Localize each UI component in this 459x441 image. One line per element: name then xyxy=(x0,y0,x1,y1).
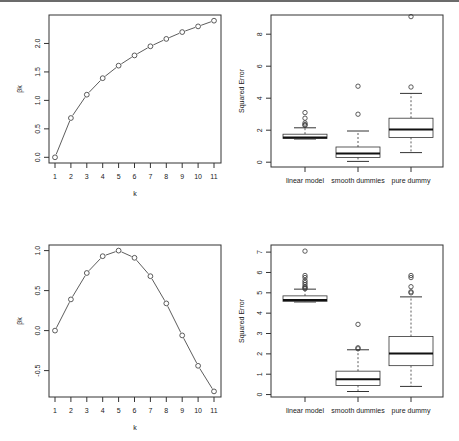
data-point xyxy=(53,328,58,333)
data-point xyxy=(84,92,89,97)
x-tick-label: 9 xyxy=(180,407,184,414)
x-category-label: linear model xyxy=(286,177,325,184)
y-tick-label: 0 xyxy=(256,160,263,164)
y-tick-label: 3 xyxy=(256,331,263,335)
data-point xyxy=(148,44,153,49)
x-tick-label: 5 xyxy=(117,173,121,180)
data-point xyxy=(69,116,74,121)
y-tick-label: 1.5 xyxy=(34,67,41,77)
series-line xyxy=(121,57,132,64)
x-tick-label: 4 xyxy=(101,407,105,414)
data-point xyxy=(116,63,121,68)
series-line xyxy=(184,338,197,363)
outlier-point xyxy=(356,322,360,326)
data-point xyxy=(132,53,137,58)
x-category-label: linear model xyxy=(286,407,325,414)
series-line xyxy=(89,259,101,271)
x-tick-label: 8 xyxy=(164,173,168,180)
data-point xyxy=(196,24,201,29)
series-line xyxy=(201,22,211,26)
data-point xyxy=(100,254,105,259)
line-chart-sine-coefficients: -0.50.00.51.0βk1234567891011k xyxy=(16,245,221,431)
x-tick-label: 10 xyxy=(194,407,202,414)
x-category-label: smooth dummies xyxy=(331,407,385,414)
series-line xyxy=(73,97,85,115)
series-line xyxy=(105,68,116,77)
iqr-box xyxy=(389,118,433,137)
series-line xyxy=(153,40,163,45)
x-axis-label: k xyxy=(133,190,137,197)
x-tick-label: 10 xyxy=(194,173,202,180)
outlier-point xyxy=(303,116,307,120)
series-line xyxy=(56,121,69,154)
y-tick-label: 4 xyxy=(256,311,263,315)
outlier-point xyxy=(409,85,413,89)
y-tick-label: 0.5 xyxy=(34,286,41,296)
x-category-label: pure dummy xyxy=(392,177,431,185)
data-point xyxy=(212,389,217,394)
figure: 0.00.51.01.52.0βk1234567891011k 02468Squ… xyxy=(0,0,459,441)
data-point xyxy=(116,248,121,253)
iqr-box xyxy=(336,371,380,385)
x-category-label: smooth dummies xyxy=(331,177,385,184)
data-point xyxy=(180,333,185,338)
x-tick-label: 9 xyxy=(180,173,184,180)
y-axis-label: βk xyxy=(16,85,24,93)
series-line xyxy=(168,306,181,332)
x-tick-label: 3 xyxy=(85,407,89,414)
y-tick-label: 2.0 xyxy=(34,38,41,48)
boxplot-linear-model xyxy=(283,249,327,302)
boxplot-pure-dummy xyxy=(389,273,433,386)
data-point xyxy=(164,301,169,306)
x-tick-label: 7 xyxy=(148,173,152,180)
y-tick-label: 6 xyxy=(256,64,263,68)
data-point xyxy=(212,18,217,23)
data-point xyxy=(164,37,169,42)
x-tick-label: 11 xyxy=(210,173,217,180)
series-line xyxy=(122,252,132,257)
series-line xyxy=(89,80,100,92)
data-point xyxy=(100,76,105,81)
series-line xyxy=(137,260,149,274)
y-tick-label: 8 xyxy=(256,32,263,36)
y-tick-label: 1.0 xyxy=(34,95,41,105)
data-point xyxy=(180,30,185,35)
plot-frame xyxy=(49,15,221,163)
outlier-point xyxy=(303,249,307,253)
y-tick-label: 7 xyxy=(256,250,263,254)
x-tick-label: 6 xyxy=(133,407,137,414)
y-tick-label: 0.0 xyxy=(34,152,41,162)
outlier-point xyxy=(409,285,413,289)
iqr-box xyxy=(336,147,380,157)
x-tick-label: 5 xyxy=(117,407,121,414)
y-axis-label: Squared Error xyxy=(238,298,246,343)
y-tick-label: 4 xyxy=(256,96,263,100)
data-point xyxy=(132,255,137,260)
x-axis-label: k xyxy=(133,424,137,431)
boxplot-squared-error-top: 02468Squared Errorlinear modelsmooth dum… xyxy=(238,14,443,185)
plot-frame xyxy=(49,245,221,397)
x-tick-label: 4 xyxy=(101,173,105,180)
data-point xyxy=(84,271,89,276)
x-tick-label: 1 xyxy=(53,173,57,180)
series-line xyxy=(73,276,86,297)
boxplot-smooth-dummies xyxy=(336,84,380,161)
x-tick-label: 2 xyxy=(69,407,73,414)
outlier-point xyxy=(356,84,360,88)
boxplot-smooth-dummies xyxy=(336,322,380,391)
y-tick-label: 6 xyxy=(256,270,263,274)
series-line xyxy=(169,33,179,37)
series-line xyxy=(137,48,147,54)
series-line xyxy=(185,27,195,31)
iqr-box xyxy=(389,337,433,366)
y-tick-label: 0.5 xyxy=(34,124,41,134)
y-axis-label: βk xyxy=(16,317,24,325)
y-tick-label: -0.5 xyxy=(34,364,41,376)
y-tick-label: 1 xyxy=(256,372,263,376)
x-tick-label: 1 xyxy=(53,407,57,414)
series-line xyxy=(106,252,116,255)
x-tick-label: 8 xyxy=(164,407,168,414)
y-tick-label: 1.0 xyxy=(34,246,41,256)
y-tick-label: 0 xyxy=(256,393,263,397)
series-line xyxy=(152,279,165,301)
